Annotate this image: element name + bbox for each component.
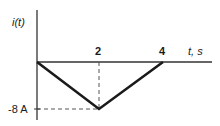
x-tick-label-2: 2: [95, 46, 101, 57]
x-axis-label: t, s: [188, 46, 203, 57]
current-waveform-diagram: i(t) t, s 2 4 -8 A: [0, 0, 220, 126]
y-axis-label: i(t): [12, 17, 25, 28]
diagram-graphics: [0, 0, 220, 126]
y-tick-label-minus8: -8 A: [8, 104, 28, 115]
current-waveform-line: [37, 62, 163, 109]
x-tick-label-4: 4: [159, 46, 165, 57]
